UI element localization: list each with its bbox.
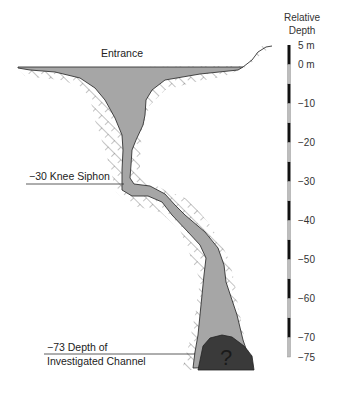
scale-tick-label: −70 bbox=[298, 332, 315, 343]
scale-tick-label: 5 m bbox=[298, 40, 315, 51]
scale-bar bbox=[288, 45, 291, 357]
entrance-label: Entrance bbox=[101, 47, 143, 59]
scale-segment bbox=[288, 143, 291, 163]
cave-profile-diagram: ? Entrance −30 Knee Siphon −73 Depth of … bbox=[0, 0, 340, 393]
scale-segment bbox=[288, 182, 291, 202]
scale-segment bbox=[288, 279, 291, 299]
scale-segment bbox=[288, 201, 291, 221]
scale-segment bbox=[288, 104, 291, 124]
knee-siphon-label: −30 Knee Siphon bbox=[29, 170, 110, 182]
scale-segment bbox=[288, 260, 291, 280]
scale-title-line2: Depth bbox=[289, 25, 316, 36]
scale-segment bbox=[288, 162, 291, 182]
scale-segment bbox=[288, 221, 291, 241]
cave-passage-water bbox=[18, 67, 252, 368]
scale-tick-label: −50 bbox=[298, 254, 315, 265]
scale-segment bbox=[288, 240, 291, 260]
scale-tick-label: −20 bbox=[298, 137, 315, 148]
scale-segment bbox=[288, 318, 291, 338]
scale-tick-label: −60 bbox=[298, 293, 315, 304]
scale-tick-label: −75 bbox=[298, 352, 315, 363]
scale-tick-label: −30 bbox=[298, 176, 315, 187]
unknown-question-mark: ? bbox=[220, 345, 232, 370]
scale-segment bbox=[288, 123, 291, 143]
scale-tick-label: −10 bbox=[298, 98, 315, 109]
scale-tick-labels: 5 m0 m−10−20−30−40−50−60−70−75 bbox=[298, 40, 315, 363]
scale-segment bbox=[288, 299, 291, 319]
scale-tick-label: 0 m bbox=[298, 59, 315, 70]
scale-title-line1: Relative bbox=[284, 12, 321, 23]
scale-segment bbox=[288, 84, 291, 104]
investigated-depth-label-line2: Investigated Channel bbox=[47, 355, 146, 367]
depth-scale: Relative Depth 5 m0 m−10−20−30−40−50−60−… bbox=[284, 12, 321, 363]
investigated-depth-label-line1: −73 Depth of bbox=[47, 341, 108, 353]
scale-segment bbox=[288, 45, 291, 65]
scale-segment bbox=[288, 338, 291, 358]
scale-tick-label: −40 bbox=[298, 215, 315, 226]
scale-segment bbox=[288, 65, 291, 85]
